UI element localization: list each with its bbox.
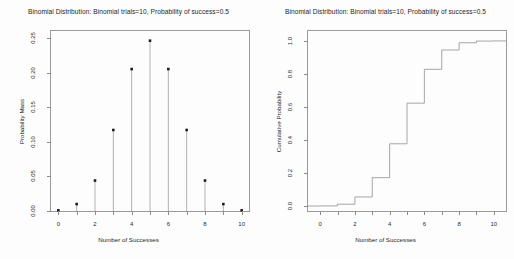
pmf-x-tick-label: 0 [57, 221, 60, 227]
cdf-step-line [308, 41, 506, 206]
pmf-y-tick-label: 0.15 [30, 101, 36, 113]
cdf-y-tick-label: 0.0 [287, 202, 293, 210]
cdf-panel: Binomial Distribution: Binomial trials=1… [257, 0, 514, 259]
cdf-plot-canvas [308, 31, 506, 211]
pmf-y-tick [47, 107, 51, 108]
cdf-x-tick-label: 6 [423, 221, 426, 227]
cdf-y-tick [304, 206, 308, 207]
pmf-x-tick [113, 211, 114, 215]
pmf-x-tick [150, 211, 151, 215]
pmf-y-tick [47, 73, 51, 74]
pmf-plot-area: 02468100.000.050.100.150.200.25 [50, 30, 250, 212]
pmf-y-tick-label: 0.05 [30, 171, 36, 183]
pmf-y-tick-label: 0.10 [30, 136, 36, 148]
cdf-x-tick [424, 211, 425, 215]
cdf-x-tick [338, 211, 339, 215]
cdf-y-tick-label: 0.6 [287, 103, 293, 111]
pmf-ylabel: Probability Mass [16, 30, 28, 212]
cdf-x-tick [372, 211, 373, 215]
pmf-data-point [185, 129, 188, 132]
pmf-x-tick-label: 10 [238, 221, 245, 227]
binomial-distribution-figure: Binomial Distribution: Binomial trials=1… [0, 0, 514, 259]
pmf-x-tick [205, 211, 206, 215]
pmf-y-tick [47, 211, 51, 212]
pmf-data-point [167, 68, 170, 71]
cdf-ylabel-text: Cumulative Probability [276, 90, 283, 152]
pmf-y-tick-label: 0.20 [30, 67, 36, 79]
pmf-x-tick [187, 211, 188, 215]
pmf-x-tick [223, 211, 224, 215]
pmf-ylabel-text: Probability Mass [19, 98, 26, 143]
pmf-x-tick [77, 211, 78, 215]
cdf-y-tick-label: 1.0 [287, 37, 293, 45]
cdf-y-tick-label: 0.2 [287, 169, 293, 177]
cdf-xlabel: Number of Successes [257, 236, 514, 243]
cdf-x-tick [407, 211, 408, 215]
cdf-panel-title: Binomial Distribution: Binomial trials=1… [257, 8, 514, 15]
cdf-x-tick-label: 4 [388, 221, 391, 227]
pmf-xlabel: Number of Successes [0, 236, 257, 243]
cdf-y-tick [304, 140, 308, 141]
cdf-x-tick-label: 2 [353, 221, 356, 227]
cdf-y-tick [304, 41, 308, 42]
cdf-ylabel: Cumulative Probability [273, 30, 285, 212]
pmf-data-point [112, 129, 115, 132]
pmf-x-tick [132, 211, 133, 215]
cdf-x-tick-label: 10 [490, 221, 497, 227]
pmf-y-tick-label: 0.25 [30, 32, 36, 44]
cdf-x-tick [355, 211, 356, 215]
cdf-x-tick-label: 8 [457, 221, 460, 227]
pmf-data-point [94, 179, 97, 182]
pmf-y-tick-label: 0.00 [30, 205, 36, 217]
pmf-data-point [222, 203, 225, 206]
pmf-x-tick-label: 6 [167, 221, 170, 227]
cdf-y-tick [304, 107, 308, 108]
cdf-x-tick [494, 211, 495, 215]
cdf-x-tick [459, 211, 460, 215]
pmf-panel-title: Binomial Distribution: Binomial trials=1… [0, 8, 257, 15]
pmf-data-point [149, 39, 152, 42]
pmf-x-tick-label: 2 [93, 221, 96, 227]
pmf-y-tick [47, 142, 51, 143]
cdf-y-tick-label: 0.8 [287, 70, 293, 78]
cdf-plot-area: 02468100.00.20.40.60.81.0 [307, 30, 507, 212]
cdf-y-tick-label: 0.4 [287, 136, 293, 144]
pmf-x-tick [242, 211, 243, 215]
pmf-x-tick-label: 4 [130, 221, 133, 227]
pmf-panel: Binomial Distribution: Binomial trials=1… [0, 0, 257, 259]
pmf-plot-canvas [51, 31, 249, 211]
cdf-y-tick [304, 74, 308, 75]
cdf-x-tick [390, 211, 391, 215]
cdf-x-tick-label: 0 [318, 221, 321, 227]
pmf-x-tick-label: 8 [203, 221, 206, 227]
cdf-x-tick [320, 211, 321, 215]
pmf-data-point [130, 68, 133, 71]
pmf-data-point [75, 203, 78, 206]
pmf-y-tick [47, 176, 51, 177]
cdf-x-tick [476, 211, 477, 215]
pmf-x-tick [168, 211, 169, 215]
pmf-y-tick [47, 38, 51, 39]
cdf-y-tick [304, 173, 308, 174]
cdf-x-tick [442, 211, 443, 215]
pmf-x-tick [58, 211, 59, 215]
pmf-x-tick [95, 211, 96, 215]
pmf-data-point [204, 179, 207, 182]
